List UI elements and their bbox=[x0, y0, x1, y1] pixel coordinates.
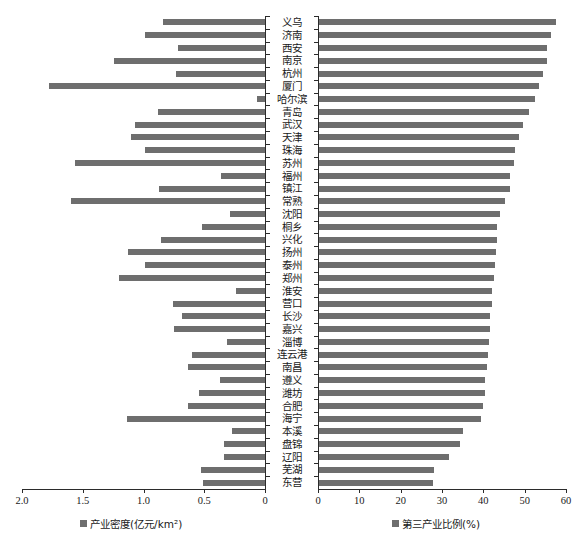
bar-row bbox=[22, 412, 265, 425]
bar bbox=[318, 134, 519, 140]
bar bbox=[318, 301, 492, 307]
bar-row bbox=[318, 16, 566, 29]
category-label: 淄博 bbox=[266, 336, 318, 349]
category-label: 义乌 bbox=[266, 16, 318, 29]
bar bbox=[318, 173, 510, 179]
bar-row bbox=[22, 221, 265, 234]
legend-industry-density: 产业密度(亿元/km²) bbox=[80, 516, 182, 531]
category-label: 南昌 bbox=[266, 361, 318, 374]
category-label: 盘锦 bbox=[266, 438, 318, 451]
category-label: 遵义 bbox=[266, 374, 318, 387]
axis-tick bbox=[359, 489, 360, 493]
category-label: 福州 bbox=[266, 169, 318, 182]
bar-row bbox=[318, 336, 566, 349]
bar bbox=[318, 326, 490, 332]
right-axis-tick-labels: 0102030405060 bbox=[318, 495, 566, 511]
bar-row bbox=[318, 272, 566, 285]
bar bbox=[318, 288, 492, 294]
bar-row bbox=[22, 323, 265, 336]
axis-tick-label: 50 bbox=[519, 495, 530, 506]
bar-row bbox=[318, 259, 566, 272]
category-label: 珠海 bbox=[266, 144, 318, 157]
bar-row bbox=[318, 374, 566, 387]
bar bbox=[145, 262, 265, 268]
bar-row bbox=[22, 208, 265, 221]
category-label: 营口 bbox=[266, 297, 318, 310]
bar bbox=[176, 71, 265, 77]
bar bbox=[318, 313, 490, 319]
bar-row bbox=[22, 169, 265, 182]
legend-label-industry-density: 产业密度(亿元/km²) bbox=[90, 516, 182, 531]
bar-row bbox=[22, 387, 265, 400]
bar-row bbox=[318, 195, 566, 208]
bar bbox=[224, 441, 265, 447]
bar bbox=[192, 352, 265, 358]
bidirectional-bar-chart: 义乌济南西安南京杭州厦门哈尔滨青岛武汉天津珠海苏州福州镇江常熟沈阳桐乡兴化扬州泰… bbox=[0, 0, 578, 550]
bar-row bbox=[318, 118, 566, 131]
bar-row bbox=[22, 233, 265, 246]
bar-row bbox=[318, 182, 566, 195]
axis-tick-label: 30 bbox=[437, 495, 448, 506]
bar bbox=[232, 428, 265, 434]
category-label: 桐乡 bbox=[266, 221, 318, 234]
bar-row bbox=[22, 80, 265, 93]
bar-row bbox=[22, 310, 265, 323]
bar bbox=[318, 71, 543, 77]
bar-row bbox=[318, 476, 566, 489]
bar bbox=[114, 58, 265, 64]
bar-row bbox=[22, 29, 265, 42]
bar bbox=[318, 19, 556, 25]
bar-row bbox=[318, 246, 566, 259]
bar bbox=[318, 147, 515, 153]
bar-row bbox=[22, 131, 265, 144]
bar-row bbox=[318, 131, 566, 144]
bar-row bbox=[318, 297, 566, 310]
axis-tick bbox=[525, 489, 526, 493]
bar bbox=[49, 83, 265, 89]
category-label: 镇江 bbox=[266, 182, 318, 195]
bar-row bbox=[22, 348, 265, 361]
bar-row bbox=[22, 425, 265, 438]
category-label: 西安 bbox=[266, 42, 318, 55]
bar bbox=[318, 352, 488, 358]
bar bbox=[145, 147, 265, 153]
bar bbox=[127, 416, 266, 422]
axis-tick bbox=[442, 489, 443, 493]
category-label: 潍坊 bbox=[266, 387, 318, 400]
bar-row bbox=[22, 93, 265, 106]
left-axis-tick-labels: 2.01.51.00.50 bbox=[22, 495, 265, 511]
category-label: 青岛 bbox=[266, 105, 318, 118]
bar-row bbox=[22, 195, 265, 208]
right-bar-rows bbox=[318, 16, 566, 489]
axis-tick-label: 20 bbox=[395, 495, 406, 506]
axis-tick-label: 10 bbox=[354, 495, 365, 506]
axis-tick-label: 0 bbox=[315, 495, 320, 506]
bar-row bbox=[318, 67, 566, 80]
bar-row bbox=[318, 425, 566, 438]
bar-row bbox=[22, 16, 265, 29]
bar-row bbox=[318, 42, 566, 55]
bar-row bbox=[22, 438, 265, 451]
bar-row bbox=[318, 438, 566, 451]
bar-row bbox=[22, 54, 265, 67]
bar bbox=[318, 390, 485, 396]
bar bbox=[318, 403, 483, 409]
category-label: 长沙 bbox=[266, 310, 318, 323]
right-vertical-axis bbox=[318, 16, 319, 489]
category-label: 连云港 bbox=[266, 348, 318, 361]
bar bbox=[318, 224, 497, 230]
bar bbox=[318, 237, 497, 243]
category-label: 武汉 bbox=[266, 118, 318, 131]
category-label: 南京 bbox=[266, 54, 318, 67]
bar bbox=[227, 339, 265, 345]
bar bbox=[158, 109, 265, 115]
category-label: 本溪 bbox=[266, 425, 318, 438]
bar-row bbox=[318, 221, 566, 234]
bar bbox=[230, 211, 265, 217]
bar bbox=[318, 32, 551, 38]
category-label: 辽阳 bbox=[266, 451, 318, 464]
bar bbox=[178, 45, 265, 51]
category-label: 嘉兴 bbox=[266, 323, 318, 336]
legend-label-tertiary-share: 第三产业比例(%) bbox=[402, 516, 480, 531]
bar bbox=[163, 19, 265, 25]
